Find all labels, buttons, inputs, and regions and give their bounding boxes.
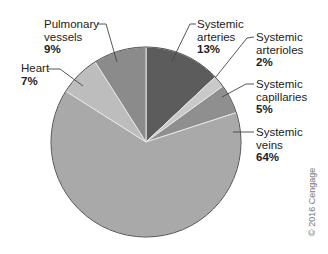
label-percent: 64% — [256, 151, 303, 164]
label-text: capillaries — [256, 91, 307, 104]
label-pulmonary-vessels: Pulmonary vessels 9% — [44, 18, 99, 56]
label-text: Systemic — [256, 126, 303, 139]
label-text: arterioles — [256, 44, 303, 57]
label-systemic-capillaries: Systemic capillaries 5% — [256, 78, 307, 116]
label-text: veins — [256, 139, 303, 152]
label-systemic-arteries: Systemic arteries 13% — [197, 18, 244, 56]
pie-slices — [51, 47, 241, 237]
label-text: arteries — [197, 31, 244, 44]
label-text: Heart — [21, 62, 49, 75]
label-systemic-veins: Systemic veins 64% — [256, 126, 303, 164]
label-percent: 2% — [256, 56, 303, 69]
label-heart: Heart 7% — [21, 62, 49, 87]
label-text: Systemic — [197, 18, 244, 31]
copyright-notice: © 2016 Cengage — [307, 168, 317, 236]
label-percent: 5% — [256, 103, 307, 116]
label-text: vessels — [44, 31, 99, 44]
label-systemic-arterioles: Systemic arterioles 2% — [256, 31, 303, 69]
label-percent: 9% — [44, 43, 99, 56]
label-text: Pulmonary — [44, 18, 99, 31]
label-percent: 13% — [197, 43, 244, 56]
label-text: Systemic — [256, 31, 303, 44]
label-percent: 7% — [21, 75, 49, 88]
label-text: Systemic — [256, 78, 307, 91]
